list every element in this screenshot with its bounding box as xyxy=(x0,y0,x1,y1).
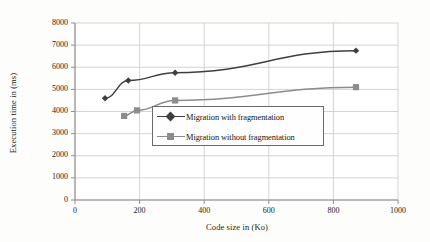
chart-legend: Migration with fragmentation Migration w… xyxy=(152,106,324,146)
y-tick-label: 0 xyxy=(34,195,68,204)
y-tick-label: 8000 xyxy=(34,18,68,27)
legend-item-1: Migration without fragmentation xyxy=(153,127,323,147)
x-axis-title: Code size in (Ko) xyxy=(75,222,399,232)
y-tick-label: 1000 xyxy=(34,172,68,181)
legend-label-series2: Migration without fragmentation xyxy=(186,133,295,142)
y-tick-label: 6000 xyxy=(34,62,68,71)
x-tick-label: 600 xyxy=(249,206,289,215)
x-tick-label: 0 xyxy=(55,206,95,215)
legend-marker-square-icon xyxy=(156,130,186,144)
legend-label-series1: Migration with fragmentation xyxy=(186,113,284,122)
data-point-marker-square xyxy=(172,97,178,103)
y-axis-title: Execution time in (ms) xyxy=(8,53,18,173)
legend-marker-diamond-icon xyxy=(156,110,186,124)
x-tick-label: 800 xyxy=(313,206,353,215)
x-tick-label: 1000 xyxy=(378,206,418,215)
data-point-marker-square xyxy=(134,107,140,113)
y-tick-label: 5000 xyxy=(34,84,68,93)
data-point-marker-square xyxy=(353,84,359,90)
y-tick-label: 7000 xyxy=(34,40,68,49)
x-tick-label: 400 xyxy=(184,206,224,215)
x-tick-label: 200 xyxy=(120,206,160,215)
data-point-marker-square xyxy=(121,113,127,119)
y-tick-label: 3000 xyxy=(34,128,68,137)
y-tick-label: 2000 xyxy=(34,150,68,159)
y-tick-label: 4000 xyxy=(34,106,68,115)
legend-item-0: Migration with fragmentation xyxy=(153,107,323,127)
chart-figure: Execution time in (ms) Code size in (Ko)… xyxy=(0,0,430,242)
